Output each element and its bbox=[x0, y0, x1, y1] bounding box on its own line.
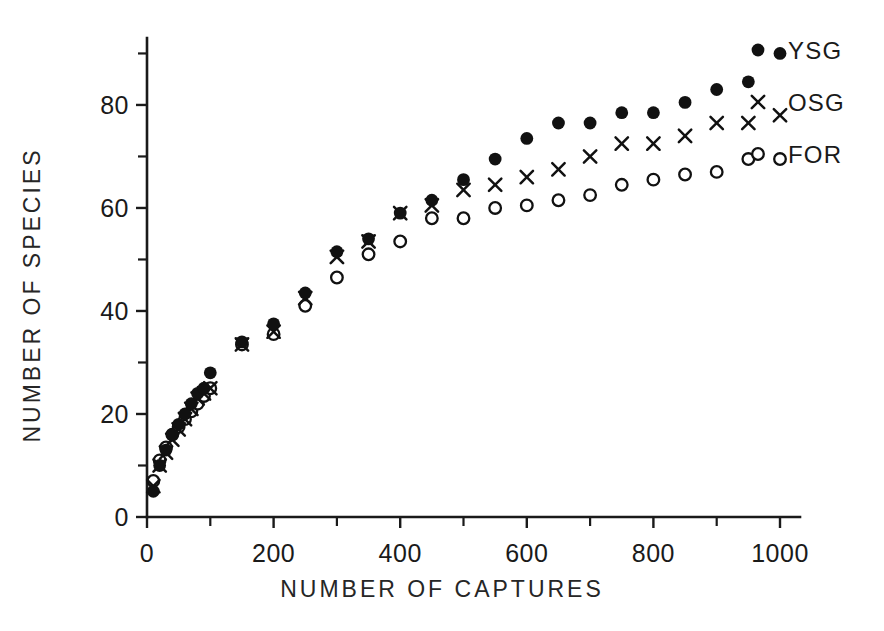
point-ysg bbox=[552, 117, 565, 130]
point-for bbox=[774, 153, 786, 165]
point-for bbox=[679, 169, 691, 181]
point-ysg bbox=[394, 207, 407, 220]
legend-label-ysg: YSG bbox=[788, 37, 842, 64]
point-ysg bbox=[584, 117, 597, 130]
legend-label-for: FOR bbox=[788, 141, 842, 168]
point-for bbox=[648, 174, 660, 186]
point-for bbox=[331, 272, 343, 284]
point-ysg bbox=[615, 106, 628, 119]
x-tick-label: 800 bbox=[632, 539, 675, 567]
point-ysg bbox=[679, 96, 692, 109]
point-for bbox=[584, 189, 596, 201]
point-ysg bbox=[153, 459, 166, 472]
point-ysg bbox=[425, 194, 438, 207]
point-for bbox=[458, 212, 470, 224]
point-ysg bbox=[198, 382, 211, 395]
legend-marker-for bbox=[752, 148, 764, 160]
x-tick-label: 400 bbox=[379, 539, 422, 567]
point-for bbox=[394, 236, 406, 248]
y-axis-title: NUMBER OF SPECIES bbox=[19, 147, 45, 442]
point-ysg bbox=[362, 232, 375, 245]
point-ysg bbox=[299, 287, 312, 300]
x-axis-title: NUMBER OF CAPTURES bbox=[280, 576, 604, 602]
y-tick-label: 80 bbox=[100, 91, 129, 119]
legend-label-osg: OSG bbox=[788, 89, 845, 116]
point-for bbox=[363, 249, 375, 261]
legend-marker-ysg bbox=[752, 44, 765, 57]
y-tick-label: 60 bbox=[100, 194, 129, 222]
point-ysg bbox=[204, 366, 217, 379]
y-tick-label: 40 bbox=[100, 297, 129, 325]
point-for bbox=[489, 202, 501, 214]
species-accumulation-chart: 02040608002004006008001000 YSGOSGFOR NUM… bbox=[0, 0, 884, 631]
point-ysg bbox=[489, 153, 502, 166]
point-for bbox=[521, 200, 533, 212]
point-ysg bbox=[710, 83, 723, 96]
point-ysg bbox=[774, 47, 787, 60]
x-tick-label: 600 bbox=[505, 539, 548, 567]
x-tick-label: 200 bbox=[252, 539, 295, 567]
y-tick-label: 0 bbox=[115, 503, 129, 531]
point-ysg bbox=[267, 317, 280, 330]
point-ysg bbox=[236, 335, 249, 348]
point-ysg bbox=[742, 75, 755, 88]
y-tick-label: 20 bbox=[100, 400, 129, 428]
x-tick-label: 0 bbox=[140, 539, 154, 567]
point-for bbox=[616, 179, 628, 191]
point-for bbox=[426, 212, 438, 224]
point-for bbox=[711, 166, 723, 178]
point-ysg bbox=[457, 173, 470, 186]
point-ysg bbox=[647, 106, 660, 119]
point-ysg bbox=[147, 485, 160, 498]
point-ysg bbox=[520, 132, 533, 145]
point-ysg bbox=[331, 245, 344, 258]
point-for bbox=[553, 194, 565, 206]
x-tick-label: 1000 bbox=[751, 539, 809, 567]
point-ysg bbox=[160, 444, 173, 457]
